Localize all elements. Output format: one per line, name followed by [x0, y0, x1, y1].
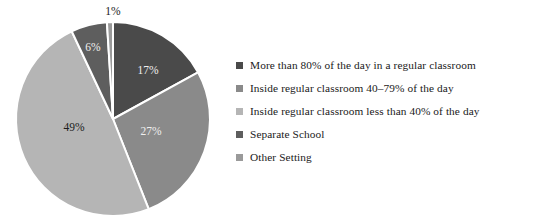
legend-item-label: More than 80% of the day in a regular cl… — [250, 60, 476, 71]
pie-label-regular-classroom-80-plus: 17% — [137, 64, 159, 76]
pie-chart-svg: 17%27%49%6%1% — [0, 0, 230, 219]
legend-item-label: Separate School — [250, 129, 325, 140]
legend-item-regular-classroom-less-40[interactable]: Inside regular classroom less than 40% o… — [236, 100, 548, 123]
legend-swatch-icon — [236, 154, 243, 161]
pie-label-other-setting: 1% — [105, 5, 121, 17]
pie-label-regular-classroom-less-40: 49% — [63, 121, 85, 133]
legend-item-label: Inside regular classroom 40–79% of the d… — [250, 83, 454, 94]
legend-item-label: Inside regular classroom less than 40% o… — [250, 106, 480, 117]
legend-item-label: Other Setting — [250, 152, 312, 163]
chart-legend: More than 80% of the day in a regular cl… — [236, 54, 548, 169]
pie-chart-figure: 17%27%49%6%1% More than 80% of the day i… — [0, 0, 553, 219]
legend-item-other-setting[interactable]: Other Setting — [236, 146, 548, 169]
legend-swatch-icon — [236, 108, 243, 115]
legend-swatch-icon — [236, 62, 243, 69]
legend-swatch-icon — [236, 85, 243, 92]
pie-slices-group — [16, 22, 210, 216]
legend-swatch-icon — [236, 131, 243, 138]
legend-item-regular-classroom-80-plus[interactable]: More than 80% of the day in a regular cl… — [236, 54, 548, 77]
legend-item-regular-classroom-40-79[interactable]: Inside regular classroom 40–79% of the d… — [236, 77, 548, 100]
pie-label-separate-school: 6% — [85, 41, 101, 53]
pie-chart-area: 17%27%49%6%1% — [0, 0, 230, 219]
pie-label-regular-classroom-40-79: 27% — [140, 125, 162, 137]
legend-item-separate-school[interactable]: Separate School — [236, 123, 548, 146]
